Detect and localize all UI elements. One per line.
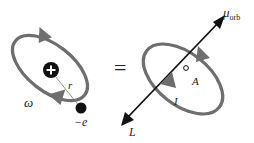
electron-icon [76,103,87,114]
current-loop [131,30,236,128]
radius-label: r [68,80,72,91]
origin-point [184,66,189,71]
current-arrow-upper-icon [196,46,210,62]
electron-charge-label: −e [74,116,87,128]
area-label: A [192,76,199,87]
current-label: I [174,96,178,107]
l-arrowhead-icon [121,112,134,126]
nucleus-icon [43,62,59,78]
mu-subscript: orb [230,13,241,22]
mu-orb-label: μorb [223,6,240,22]
omega-label: ω [24,96,33,109]
angular-momentum-label: L [129,126,136,138]
equals-sign: = [114,57,126,79]
diagram-canvas [0,0,254,143]
